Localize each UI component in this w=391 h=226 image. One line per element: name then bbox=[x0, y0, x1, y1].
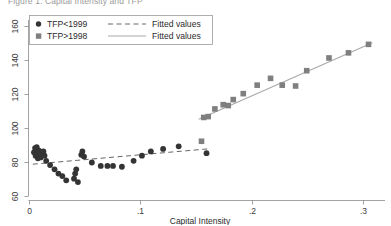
data-point bbox=[81, 154, 87, 160]
data-point bbox=[230, 97, 236, 103]
legend-label-fitted-values-dashed: Fitted values bbox=[152, 19, 201, 29]
data-point bbox=[139, 153, 145, 159]
y-tick-label-140: 140 bbox=[10, 53, 20, 67]
x-tick-label-0: 0 bbox=[27, 206, 32, 216]
data-point bbox=[254, 82, 260, 88]
data-point bbox=[326, 55, 332, 61]
data-point bbox=[43, 158, 49, 164]
data-point bbox=[220, 102, 226, 108]
data-point bbox=[89, 160, 95, 166]
data-point bbox=[225, 103, 231, 109]
y-tick-label-80: 80 bbox=[10, 158, 20, 168]
x-axis-title: Capital Intensity bbox=[170, 216, 231, 225]
legend-circle-marker bbox=[36, 21, 41, 26]
data-point bbox=[199, 138, 205, 144]
y-tick-label-100: 100 bbox=[10, 121, 20, 135]
x-tick-label-p2: .2 bbox=[249, 206, 256, 216]
scatter-plot: 160 140 120 100 80 60 0 .1 .2 .3 Capital… bbox=[0, 0, 391, 225]
data-point bbox=[176, 143, 182, 149]
data-point bbox=[212, 106, 218, 112]
y-tick-label-120: 120 bbox=[10, 87, 20, 101]
data-point bbox=[47, 162, 53, 168]
legend-square-marker bbox=[36, 33, 41, 38]
data-point bbox=[160, 146, 166, 152]
data-point bbox=[98, 163, 104, 169]
data-point bbox=[268, 76, 274, 82]
fitted-lines-layer bbox=[33, 43, 373, 165]
x-axis-ticks bbox=[30, 201, 364, 205]
data-point bbox=[42, 153, 48, 159]
data-point bbox=[293, 83, 299, 89]
data-point bbox=[119, 164, 125, 170]
data-point bbox=[63, 177, 69, 183]
data-point bbox=[79, 149, 85, 155]
y-tick-label-160: 160 bbox=[10, 19, 20, 33]
data-point bbox=[205, 114, 211, 120]
figure-container: Figure 1. Capital Intensity and TFP 160 … bbox=[0, 0, 391, 225]
legend-label-tfp-lt-1999: TFP<1999 bbox=[47, 19, 88, 29]
data-point bbox=[105, 163, 111, 169]
y-axis-ticks bbox=[25, 27, 29, 197]
data-point bbox=[346, 50, 352, 56]
data-point bbox=[73, 166, 79, 172]
x-axis: 0 .1 .2 .3 Capital Intensity bbox=[27, 201, 385, 226]
y-axis: 160 140 120 100 80 60 bbox=[10, 19, 28, 201]
data-point bbox=[59, 173, 65, 179]
legend: TFP<1999 Fitted values TFP>1998 Fitted v… bbox=[30, 16, 213, 45]
legend-label-tfp-gt-1998: TFP>1998 bbox=[47, 31, 88, 41]
data-point bbox=[52, 166, 58, 172]
data-point bbox=[304, 68, 310, 74]
data-point bbox=[204, 150, 210, 156]
data-point bbox=[110, 163, 116, 169]
legend-label-fitted-values-solid: Fitted values bbox=[152, 31, 201, 41]
data-point bbox=[240, 91, 246, 97]
data-point bbox=[75, 179, 81, 185]
data-point bbox=[131, 158, 137, 164]
fitted-line-dashed bbox=[33, 149, 208, 164]
data-point bbox=[279, 82, 285, 88]
x-tick-label-p1: .1 bbox=[137, 206, 144, 216]
data-points-layer bbox=[31, 42, 371, 185]
data-point bbox=[148, 149, 154, 155]
y-tick-label-60: 60 bbox=[10, 192, 20, 202]
data-point bbox=[366, 42, 372, 48]
x-tick-label-p3: .3 bbox=[360, 206, 367, 216]
